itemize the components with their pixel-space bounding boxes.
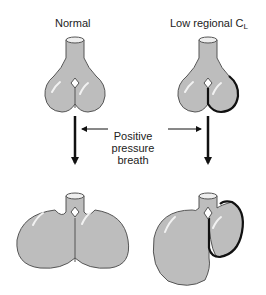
trachea-top (199, 193, 217, 199)
lung-normal-before (45, 37, 105, 112)
lung-low-cl-before (178, 37, 238, 112)
trachea-top (66, 193, 84, 199)
lung-normal-after (17, 193, 129, 268)
diagram-canvas (0, 0, 266, 295)
trachea-top (66, 37, 84, 43)
trachea-top (199, 37, 217, 43)
lung-low-cl-after (153, 193, 243, 285)
